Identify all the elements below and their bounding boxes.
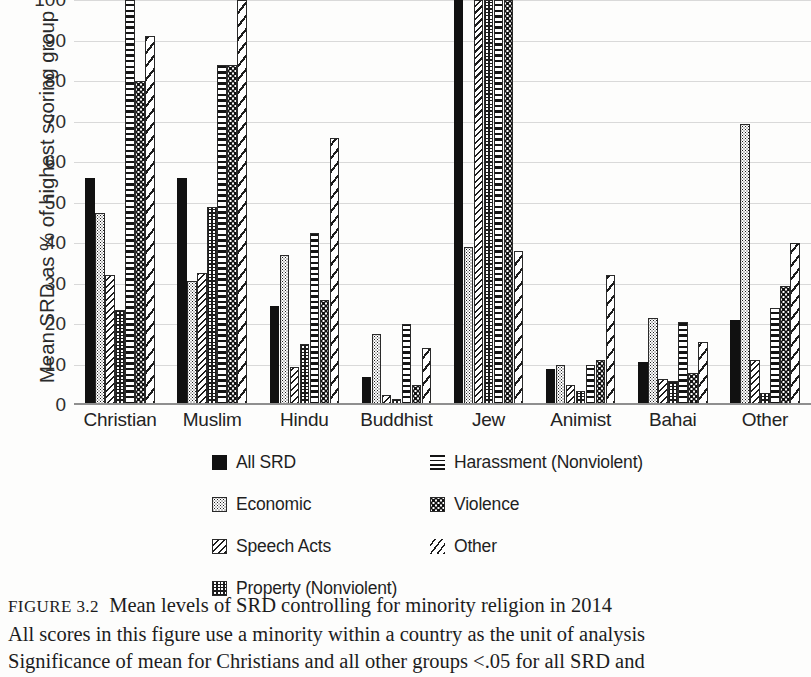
bar-other-other <box>790 243 800 405</box>
y-tick-100: 100 <box>34 0 66 9</box>
y-tick-20: 20 <box>45 314 66 333</box>
bar-jew-other <box>514 251 524 405</box>
bar-group-other <box>719 0 811 405</box>
bar-muslim-property-nonviolent <box>207 207 217 405</box>
bar-group-hindu <box>258 0 350 405</box>
bars <box>535 0 627 405</box>
bar-group-jew <box>443 0 535 405</box>
bar-hindu-harassment-nonviolent <box>310 233 320 405</box>
caption-line-2: All scores in this figure use a minority… <box>8 621 808 649</box>
bar-jew-speech-acts <box>474 0 484 405</box>
legend-item-violence[interactable]: Violence <box>430 494 692 515</box>
bar-hindu-all-srd <box>270 306 280 405</box>
bar-hindu-speech-acts <box>290 367 300 405</box>
bar-muslim-other <box>237 0 247 405</box>
sparse-diagonals-swatch <box>430 539 445 554</box>
y-tick-30: 30 <box>45 274 66 293</box>
bar-christian-other <box>145 36 155 405</box>
legend-label: Other <box>454 536 497 557</box>
bar-bahai-property-nonviolent <box>668 381 678 405</box>
y-axis-tick-labels: 1009080706050403020100 <box>20 0 72 430</box>
bar-bahai-harassment-nonviolent <box>678 322 688 405</box>
x-tick-animist: Animist <box>535 409 627 431</box>
bar-bahai-all-srd <box>638 362 648 405</box>
bar-other-harassment-nonviolent <box>770 308 780 405</box>
bar-animist-all-srd <box>546 369 556 405</box>
bar-bahai-other <box>698 342 708 405</box>
bar-muslim-all-srd <box>177 178 187 405</box>
bar-buddhist-harassment-nonviolent <box>402 324 412 405</box>
bar-group-animist <box>535 0 627 405</box>
x-tick-hindu: Hindu <box>258 409 350 431</box>
legend-label: Economic <box>236 494 311 515</box>
legend-item-harassment-nonviolent[interactable]: Harassment (Nonviolent) <box>430 452 692 473</box>
bar-buddhist-all-srd <box>362 377 372 405</box>
bars <box>627 0 719 405</box>
fine-dots-swatch <box>212 497 227 512</box>
bar-christian-violence <box>135 81 145 405</box>
bar-chart: Mean SRD as % of highest scoring group 1… <box>0 0 811 430</box>
x-axis-tick-labels: ChristianMuslimHinduBuddhistJewAnimistBa… <box>74 409 811 431</box>
bar-buddhist-economic <box>372 334 382 405</box>
caption-line-3: Significance of mean for Christians and … <box>8 648 808 676</box>
bar-hindu-other <box>330 138 340 405</box>
legend-item-speech-acts[interactable]: Speech Acts <box>212 536 430 557</box>
bar-christian-harassment-nonviolent <box>125 0 135 405</box>
bar-other-violence <box>780 286 790 405</box>
x-tick-christian: Christian <box>74 409 166 431</box>
legend-item-economic[interactable]: Economic <box>212 494 430 515</box>
legend-label: Speech Acts <box>236 536 331 557</box>
legend-label: All SRD <box>236 452 296 473</box>
bar-christian-all-srd <box>85 178 95 405</box>
x-axis-line <box>74 403 811 405</box>
bars <box>166 0 258 405</box>
plot-area <box>74 0 811 405</box>
coarse-dots-swatch <box>430 497 445 512</box>
figure-number: FIGURE 3.2 <box>8 597 99 616</box>
y-tick-80: 80 <box>45 71 66 90</box>
bars <box>443 0 535 405</box>
solid-black-swatch <box>212 455 227 470</box>
diagonal-hatch-swatch <box>212 539 227 554</box>
y-tick-70: 70 <box>45 112 66 131</box>
chart-legend: All SRDHarassment (Nonviolent)EconomicVi… <box>212 452 692 599</box>
x-tick-jew: Jew <box>443 409 535 431</box>
bar-christian-property-nonviolent <box>115 310 125 405</box>
figure-caption: FIGURE 3.2 Mean levels of SRD controllin… <box>8 592 808 676</box>
bar-bahai-speech-acts <box>658 379 668 405</box>
legend-item-all-srd[interactable]: All SRD <box>212 452 430 473</box>
bar-bahai-violence <box>688 373 698 405</box>
bar-buddhist-violence <box>412 385 422 405</box>
bar-muslim-speech-acts <box>197 273 207 405</box>
bar-bahai-economic <box>648 318 658 405</box>
bar-animist-violence <box>596 360 606 405</box>
x-tick-bahai: Bahai <box>627 409 719 431</box>
bars <box>719 0 811 405</box>
bar-jew-harassment-nonviolent <box>494 0 504 405</box>
bars <box>350 0 442 405</box>
bars <box>74 0 166 405</box>
bar-group-christian <box>74 0 166 405</box>
y-tick-40: 40 <box>45 233 66 252</box>
bar-animist-economic <box>556 365 566 405</box>
x-tick-buddhist: Buddhist <box>350 409 442 431</box>
legend-item-other[interactable]: Other <box>430 536 692 557</box>
bar-buddhist-other <box>422 348 432 405</box>
bar-christian-economic <box>95 213 105 405</box>
x-tick-other: Other <box>719 409 811 431</box>
bar-animist-other <box>606 275 616 405</box>
bar-muslim-violence <box>227 65 237 405</box>
legend-label: Harassment (Nonviolent) <box>454 452 643 473</box>
caption-title: Mean levels of SRD controlling for minor… <box>109 594 612 616</box>
bar-group-buddhist <box>350 0 442 405</box>
bar-group-muslim <box>166 0 258 405</box>
bar-animist-speech-acts <box>566 385 576 405</box>
bar-jew-economic <box>464 247 474 405</box>
bar-hindu-property-nonviolent <box>300 344 310 405</box>
bar-hindu-economic <box>280 255 290 405</box>
bar-hindu-violence <box>320 300 330 405</box>
horizontal-lines-swatch <box>430 455 445 470</box>
bar-other-economic <box>740 124 750 405</box>
y-tick-90: 90 <box>45 31 66 50</box>
bar-jew-violence <box>504 0 514 405</box>
